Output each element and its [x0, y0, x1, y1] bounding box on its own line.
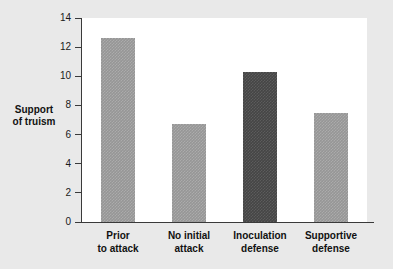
y-tick-label: 0 — [31, 217, 71, 227]
category-label-line: Supportive — [285, 230, 377, 243]
y-tick-mark — [75, 134, 81, 135]
y-tick-mark — [75, 105, 81, 106]
y-tick-label: 12 — [31, 42, 71, 52]
category-label-line: defense — [285, 243, 377, 256]
y-tick-label: 10 — [31, 71, 71, 81]
category-label-4: Supportivedefense — [285, 230, 377, 255]
y-tick-label: 4 — [31, 159, 71, 169]
y-tick-label: 14 — [31, 13, 71, 23]
y-tick-mark — [75, 192, 81, 193]
y-tick-label: 8 — [31, 100, 71, 110]
y-tick-mark — [75, 222, 81, 223]
bar-4 — [314, 113, 348, 222]
y-tick-mark — [75, 47, 81, 48]
y-tick-label: 6 — [31, 130, 71, 140]
x-axis-line — [75, 222, 374, 223]
y-axis-title-line-2: of truism — [4, 116, 64, 128]
bar-1 — [101, 38, 135, 222]
y-axis-line — [81, 18, 82, 223]
bar-chart-figure: Support of truism 02468101214 Priorto at… — [0, 0, 393, 269]
y-tick-mark — [75, 18, 81, 19]
y-tick-mark — [75, 76, 81, 77]
bar-2 — [172, 124, 206, 222]
bar-3 — [243, 72, 277, 222]
y-tick-mark — [75, 163, 81, 164]
y-tick-label: 2 — [31, 188, 71, 198]
